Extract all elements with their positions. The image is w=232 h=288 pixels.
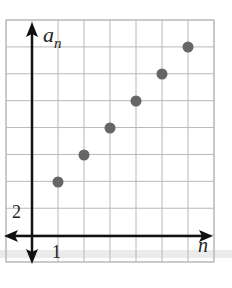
x-tick-label: 1 [52,242,61,262]
x-axis-label: n [198,234,208,256]
data-point [53,177,64,188]
data-point [131,96,142,107]
data-point [105,123,116,134]
data-point [157,69,168,80]
data-point [183,42,194,53]
sequence-scatter-chart: an n 2 1 [0,0,232,288]
axes [4,22,213,264]
data-points [53,42,194,188]
data-point [79,150,90,161]
y-axis-label: an [43,22,62,51]
grid [6,20,214,262]
y-tick-label: 2 [12,202,21,222]
